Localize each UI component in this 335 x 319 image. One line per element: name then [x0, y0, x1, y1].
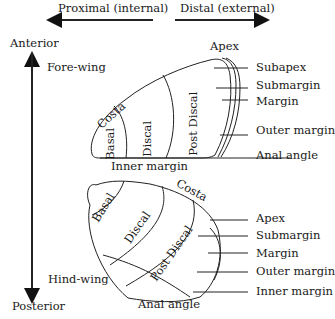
forewing-postdiscal: Post Discal [188, 92, 200, 156]
posterior-label: Posterior [12, 301, 65, 313]
proximal-label: Proximal (internal) [58, 3, 168, 15]
fw-callout-subapex: Subapex [256, 62, 306, 74]
hw-callout-inner-margin: Inner margin [256, 286, 333, 298]
anterior-label: Anterior [10, 38, 59, 50]
forewing-basal: Basal [105, 128, 117, 160]
hindwing-anal-angle: Anal angle [138, 299, 200, 311]
hw-callout-margin: Margin [256, 248, 299, 260]
hw-callout-outer-margin: Outer margin [256, 266, 335, 278]
forewing-title: Fore-wing [47, 62, 106, 74]
fw-callout-margin: Margin [256, 96, 299, 108]
hw-callout-apex: Apex [256, 213, 285, 225]
fw-callout-submargin: Submargin [256, 80, 320, 92]
fw-callout-outer-margin: Outer margin [256, 125, 335, 137]
hw-callout-submargin: Submargin [256, 230, 320, 242]
fw-callout-anal-angle: Anal angle [256, 150, 318, 162]
forewing-discal: Discal [142, 121, 154, 157]
fw-callout-apex: Apex [210, 41, 239, 53]
forewing-inner-margin: Inner margin [111, 161, 188, 173]
distal-label: Distal (external) [180, 3, 275, 15]
hindwing-title: Hind-wing [48, 274, 109, 286]
